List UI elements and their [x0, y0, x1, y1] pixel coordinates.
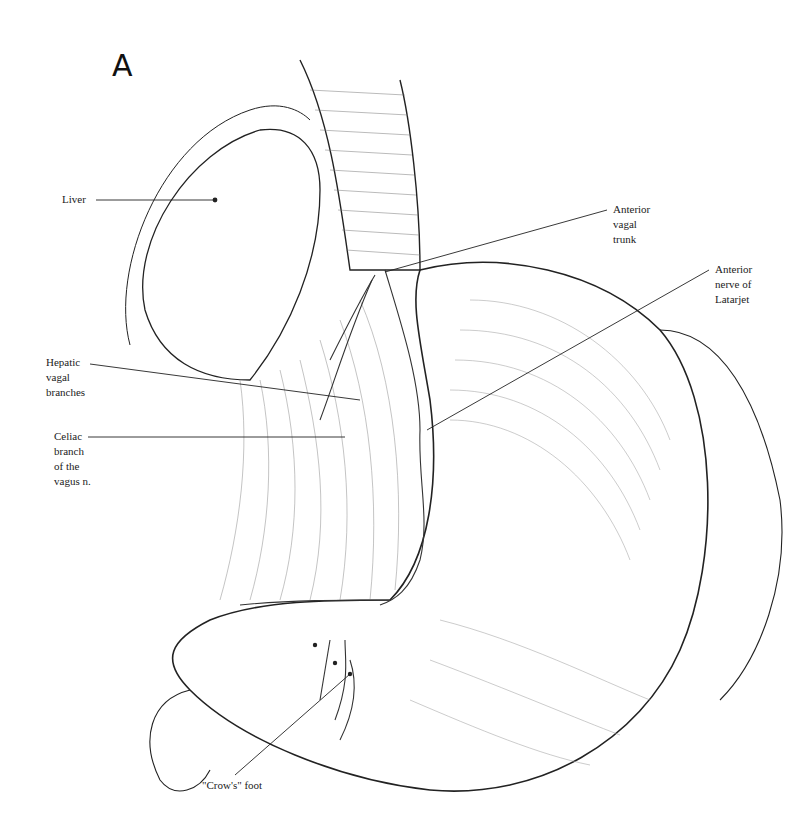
liver-lobe	[143, 129, 320, 380]
leader-crows-foot	[235, 674, 350, 775]
label-crows-foot: "Crow's" foot	[202, 778, 262, 793]
leader-latarjet	[427, 270, 709, 430]
esophagus	[300, 60, 420, 270]
label-anterior-nerve-of-latarjet: Anterior nerve of Latarjet	[715, 262, 752, 307]
stomach-outline	[173, 263, 708, 792]
label-hepatic-vagal-branches: Hepatic vagal branches	[46, 355, 85, 400]
label-anterior-vagal-trunk: Anterior vagal trunk	[613, 202, 650, 247]
label-celiac-branch: Celiac branch of the vagus n.	[54, 429, 91, 489]
leader-hepatic	[90, 364, 360, 400]
label-liver: Liver	[62, 192, 86, 207]
stomach-illustration	[0, 0, 811, 833]
